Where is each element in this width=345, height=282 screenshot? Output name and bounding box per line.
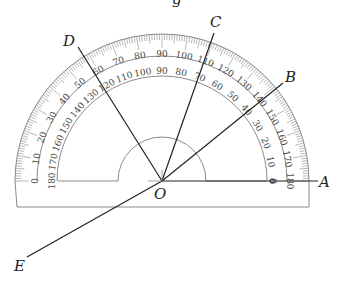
scale-number: 50 [225, 89, 240, 104]
scale-number: 180 [47, 172, 57, 189]
scale-numbers: 0102030405060708090100110120130140150160… [30, 49, 295, 190]
label-top-fragment: g [172, 0, 182, 8]
scale-number: 130 [81, 87, 101, 106]
label-A: A [317, 173, 330, 191]
scale-number: 30 [251, 118, 266, 133]
scale-number: 40 [239, 102, 254, 117]
scale-number: 60 [210, 78, 225, 93]
scale-number: 30 [44, 110, 59, 125]
scale-number: 140 [250, 89, 269, 109]
scale-number: 0 [30, 178, 40, 184]
label-D: D [62, 32, 75, 50]
scale-number: 50 [72, 76, 87, 91]
label-O: O [154, 185, 166, 203]
label-E: E [13, 257, 25, 275]
scale-number: 130 [234, 74, 254, 93]
scale-number: 40 [57, 91, 72, 106]
scale-number: 10 [265, 155, 277, 168]
scale-number: 100 [175, 49, 194, 62]
scale-number: 150 [264, 107, 281, 127]
label-B: B [284, 68, 296, 86]
scale-number: 20 [259, 136, 272, 150]
protractor-diagram: 0102030405060708090100110120130140150160… [0, 0, 345, 282]
ray-OE [27, 181, 162, 257]
scale-number: 80 [175, 66, 188, 78]
scale-number: 160 [274, 128, 289, 148]
scale-number: 90 [156, 66, 168, 76]
scale-number: 70 [111, 54, 125, 67]
scale-number: 170 [281, 150, 294, 169]
ray-OB [162, 83, 283, 181]
label-C: C [210, 13, 222, 31]
angle-rays [27, 33, 318, 257]
scale-number: 80 [133, 49, 146, 61]
scale-number: 120 [216, 62, 236, 79]
scale-number: 90 [156, 49, 168, 59]
scale-number: 10 [31, 152, 43, 165]
